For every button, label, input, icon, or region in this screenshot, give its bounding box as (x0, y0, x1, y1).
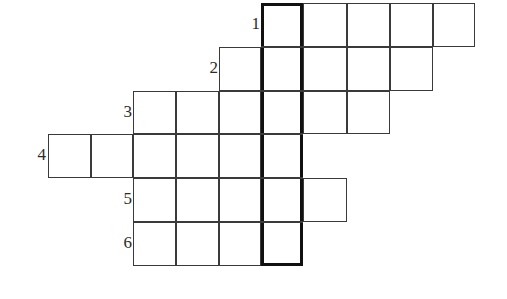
grid-cell-r3-c4[interactable] (219, 91, 261, 134)
grid-cell-r6-c4[interactable] (219, 222, 261, 266)
grid-cell-r4-c1[interactable] (91, 134, 133, 178)
grid-cell-r3-c2[interactable] (133, 91, 176, 134)
grid-cell-r2-c5[interactable] (261, 47, 303, 91)
grid-cell-r2-c7[interactable] (347, 47, 390, 91)
grid-cell-r1-c5[interactable] (261, 3, 303, 47)
grid-cell-r6-c2[interactable] (133, 222, 176, 266)
grid-cell-r5-c5[interactable] (261, 178, 303, 222)
grid-cell-r5-c4[interactable] (219, 178, 261, 222)
grid-cell-r4-c4[interactable] (219, 134, 261, 178)
grid-cell-r3-c6[interactable] (303, 91, 347, 134)
grid-cell-r4-c5[interactable] (261, 134, 303, 178)
grid-cell-r2-c6[interactable] (303, 47, 347, 91)
grid-cell-r2-c4[interactable] (219, 47, 261, 91)
row-number-label-4: 4 (24, 146, 46, 163)
grid-cell-r1-c8[interactable] (390, 3, 433, 47)
row-number-label-3: 3 (110, 103, 132, 120)
grid-cell-r1-c6[interactable] (303, 3, 347, 47)
bold-column-divider-4 (261, 177, 303, 179)
grid-cell-r2-c8[interactable] (390, 47, 433, 91)
grid-cell-r5-c6[interactable] (303, 178, 347, 222)
row-number-label-6: 6 (110, 234, 132, 251)
grid-cell-r1-c7[interactable] (347, 3, 390, 47)
bold-column-divider-1 (261, 46, 303, 48)
grid-cell-r5-c2[interactable] (133, 178, 176, 222)
bold-column-divider-3 (261, 133, 303, 135)
grid-cell-r4-c2[interactable] (133, 134, 176, 178)
grid-cell-r4-c3[interactable] (176, 134, 219, 178)
bold-column-divider-5 (261, 221, 303, 223)
grid-cell-r3-c7[interactable] (347, 91, 390, 134)
row-number-label-1: 1 (238, 15, 260, 32)
grid-cell-r3-c3[interactable] (176, 91, 219, 134)
crossword-grid: 123456 (0, 0, 507, 299)
grid-cell-r1-c9[interactable] (433, 3, 475, 47)
crossword-puzzle: 123456 (0, 0, 507, 299)
grid-cell-r3-c5[interactable] (261, 91, 303, 134)
row-number-label-2: 2 (196, 59, 218, 76)
grid-cell-r6-c5[interactable] (261, 222, 303, 266)
grid-cell-r6-c3[interactable] (176, 222, 219, 266)
grid-cell-r5-c3[interactable] (176, 178, 219, 222)
row-number-label-5: 5 (110, 190, 132, 207)
bold-column-divider-2 (261, 90, 303, 92)
grid-cell-r4-c0[interactable] (48, 134, 91, 178)
